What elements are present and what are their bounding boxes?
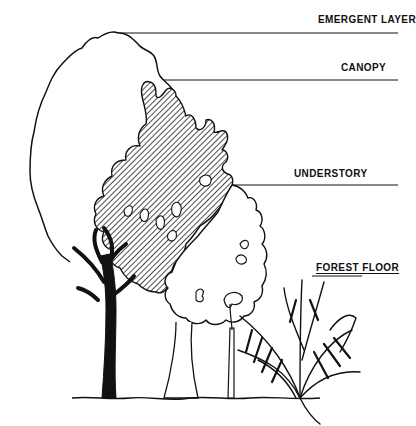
forest-floor-label: FOREST FLOOR [316,262,399,273]
emergent-layer-label: EMERGENT LAYER [318,14,416,25]
understory-label: UNDERSTORY [294,168,367,179]
canopy-label: CANOPY [341,62,386,73]
understory-tree-trunk [164,322,198,398]
